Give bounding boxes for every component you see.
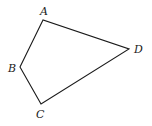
vertex-label-a: A — [39, 5, 48, 18]
quadrilateral-diagram: A B C D — [0, 0, 152, 126]
vertex-label-b: B — [7, 62, 16, 75]
vertex-label-c: C — [36, 108, 45, 121]
quadrilateral-ABCD — [20, 20, 129, 104]
vertex-label-d: D — [133, 43, 143, 56]
